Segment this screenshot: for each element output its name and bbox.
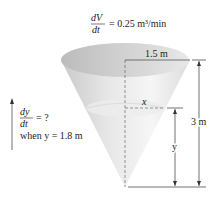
water-height-arrow-up-icon xyxy=(173,109,177,114)
height-arrow-down-icon xyxy=(197,181,201,186)
question-condition: when y = 1.8 m xyxy=(20,130,83,141)
dy-value: = ? xyxy=(36,112,49,123)
rising-arrow-icon xyxy=(10,98,14,104)
height-label: 3 m xyxy=(191,116,207,127)
dy-numerator: dy xyxy=(20,106,30,117)
dv-value: = 0.25 m³/min xyxy=(109,18,166,29)
dy-denominator: dt xyxy=(20,118,28,129)
radius-label: 1.5 m xyxy=(145,48,168,59)
dv-numerator: dV xyxy=(91,12,104,23)
conical-tank-diagram: dV dt = 0.25 m³/min 1.5 m x 3 m y dy dt … xyxy=(0,0,216,199)
cone-body xyxy=(61,60,190,187)
water-height-arrow-down-icon xyxy=(173,181,177,186)
height-arrow-up-icon xyxy=(197,61,201,66)
dv-denominator: dt xyxy=(92,24,100,35)
water-height-label: y xyxy=(172,141,177,152)
water-radius-label: x xyxy=(141,96,147,107)
